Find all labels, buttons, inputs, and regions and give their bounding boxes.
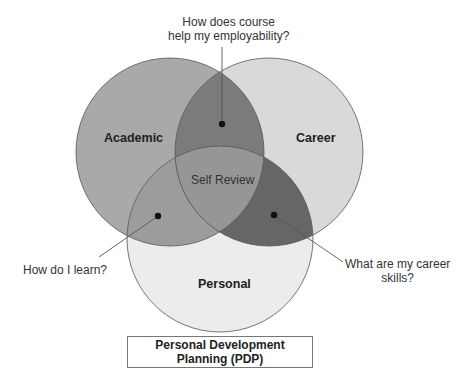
venn-svg (0, 0, 457, 382)
top-dot-marker (219, 121, 225, 127)
pdp-title-line2: Planning (PDP) (177, 352, 264, 366)
left-question: How do I learn? (23, 263, 107, 277)
career-label: Career (296, 131, 336, 145)
pdp-title-line1: Personal Development (155, 338, 284, 352)
pdp-title-box: Personal Development Planning (PDP) (127, 336, 313, 368)
self-review-label: Self Review (191, 173, 254, 187)
top-question: How does course help my employability? (168, 15, 289, 43)
right-question-line2: skills? (345, 271, 450, 285)
right-question-line1: What are my career (345, 257, 450, 271)
venn-diagram: Academic Career Personal Self Review How… (0, 0, 457, 382)
academic-label: Academic (104, 131, 163, 145)
personal-label: Personal (198, 277, 251, 291)
top-question-line2: help my employability? (168, 29, 289, 43)
right-dot-marker (271, 212, 277, 218)
top-question-line1: How does course (168, 15, 289, 29)
left-dot-marker (155, 213, 161, 219)
right-question: What are my career skills? (345, 257, 450, 285)
